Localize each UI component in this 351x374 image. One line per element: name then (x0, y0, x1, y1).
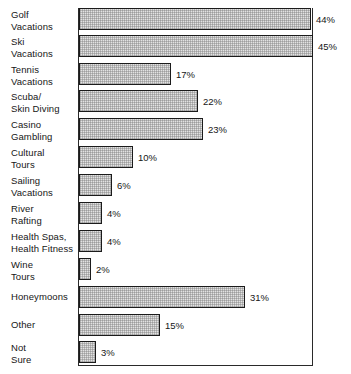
bar (79, 286, 245, 308)
bar (79, 8, 311, 30)
category-label: Other (11, 319, 77, 331)
bar (79, 341, 96, 363)
bar-value-label: 22% (203, 96, 222, 107)
bar-value-label: 31% (250, 292, 269, 303)
category-label: Cultural Tours (11, 147, 77, 170)
bar (79, 35, 313, 57)
bar-value-label: 4% (107, 236, 121, 247)
bar (79, 230, 102, 252)
bar (79, 118, 203, 140)
bar-value-label: 45% (318, 41, 337, 52)
bar (79, 90, 198, 112)
bar-value-label: 2% (96, 264, 110, 275)
bar (79, 63, 171, 85)
bar-value-label: 4% (107, 208, 121, 219)
bar-value-label: 17% (176, 69, 195, 80)
axis-line-right (312, 8, 313, 366)
category-label: Scuba/ Skin Diving (11, 91, 77, 114)
category-label: Ski Vacations (11, 36, 77, 59)
category-label: Sailing Vacations (11, 175, 77, 198)
category-label: Tennis Vacations (11, 64, 77, 87)
bar (79, 174, 112, 196)
bar-value-label: 15% (165, 320, 184, 331)
category-label: Not Sure (11, 342, 77, 365)
category-label: Health Spas, Health Fitness (11, 231, 77, 254)
category-label: Casino Gambling (11, 119, 77, 142)
bar (79, 258, 91, 280)
bar-value-label: 23% (208, 124, 227, 135)
category-label: River Rafting (11, 203, 77, 226)
category-label: Honeymoons (11, 291, 77, 303)
category-label: Wine Tours (11, 259, 77, 282)
bar (79, 314, 160, 336)
bar (79, 202, 102, 224)
bar-value-label: 44% (316, 14, 335, 25)
axis-line-bottom (78, 365, 313, 366)
category-label: Golf Vacations (11, 9, 77, 32)
bar-value-label: 6% (117, 180, 131, 191)
bar (79, 146, 133, 168)
bar-value-label: 3% (101, 347, 115, 358)
horizontal-bar-chart: Golf Vacations44%Ski Vacations45%Tennis … (0, 0, 351, 374)
bar-value-label: 10% (138, 152, 157, 163)
